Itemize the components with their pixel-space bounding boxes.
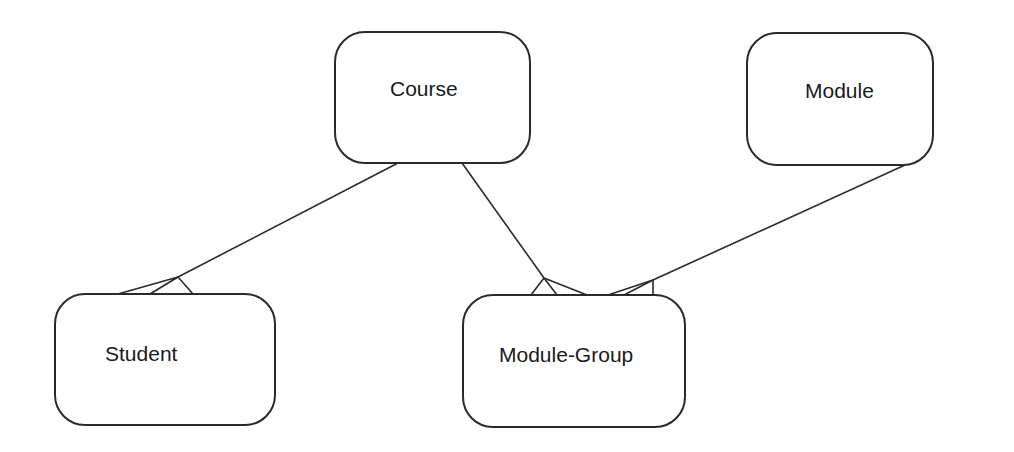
entity-module-label: Module [805, 79, 874, 102]
edge-course-module-group [462, 163, 587, 295]
entity-course-label: Course [390, 77, 458, 100]
edge-course-student [118, 163, 398, 294]
entity-student[interactable]: Student [55, 294, 275, 425]
entity-course[interactable]: Course [335, 32, 530, 163]
entity-module[interactable]: Module [747, 33, 933, 165]
entity-student-label: Student [105, 342, 178, 365]
entity-module-group-label: Module-Group [499, 343, 633, 366]
er-diagram: Course Module Student Module-Group [0, 0, 1014, 452]
edge-module-module-group [608, 165, 905, 295]
entity-module-group[interactable]: Module-Group [463, 295, 685, 427]
